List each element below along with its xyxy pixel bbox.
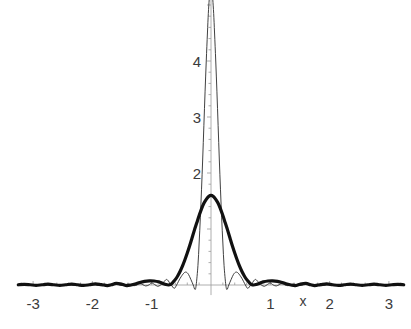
x-tick-label: 1 — [266, 295, 274, 312]
x-tick-label: -1 — [145, 295, 158, 312]
x-tick-label: -3 — [26, 295, 39, 312]
chart-figure: -3-2-1123234x — [0, 0, 411, 329]
y-tick-label: 2 — [193, 165, 201, 182]
chart-plot-area — [0, 0, 411, 329]
y-tick-label: 3 — [193, 109, 201, 126]
x-axis-label: x — [299, 293, 306, 309]
x-tick-label: -2 — [86, 295, 99, 312]
y-tick-label: 4 — [193, 53, 201, 70]
axes-layer — [18, 0, 403, 295]
x-tick-label: 2 — [325, 295, 333, 312]
x-tick-label: 3 — [385, 295, 393, 312]
